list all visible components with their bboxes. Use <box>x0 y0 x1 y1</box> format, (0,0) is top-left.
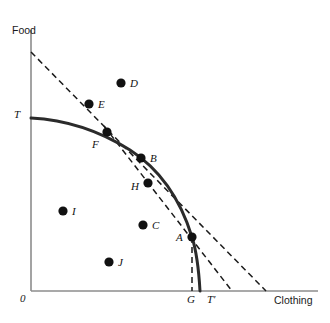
data-point-J[interactable] <box>104 257 113 266</box>
dashed-lines-group <box>31 52 266 291</box>
point-label-E: E <box>98 99 105 110</box>
diagram-canvas <box>0 0 330 323</box>
data-point-I[interactable] <box>58 206 67 215</box>
point-label-J: J <box>118 257 123 268</box>
ppf-curve-group <box>31 118 200 291</box>
tick-label-T: T <box>14 109 20 120</box>
data-point-H[interactable] <box>143 178 152 187</box>
data-point-B[interactable] <box>136 153 145 162</box>
origin-label: 0 <box>20 293 26 304</box>
x-axis-title: Clothing <box>274 295 313 306</box>
point-label-B: B <box>150 153 157 164</box>
production-possibility-frontier <box>31 118 200 291</box>
data-point-D[interactable] <box>116 78 125 87</box>
y-axis-title: Food <box>12 25 36 36</box>
data-point-E[interactable] <box>84 99 93 108</box>
point-label-D: D <box>130 78 138 89</box>
point-label-H: H <box>131 181 139 192</box>
data-point-F[interactable] <box>102 127 111 136</box>
data-point-A[interactable] <box>187 232 196 241</box>
data-point-C[interactable] <box>138 220 147 229</box>
point-label-C: C <box>152 220 159 231</box>
tick-label-T-prime: T′ <box>207 294 216 305</box>
point-label-A: A <box>176 232 183 243</box>
point-label-I: I <box>72 206 76 217</box>
price-line-tangent-A <box>104 126 232 291</box>
tick-label-G: G <box>187 294 195 305</box>
budget-line-T <box>31 52 266 291</box>
axes-group <box>31 30 318 291</box>
ppf-diagram: Food Clothing 0 T G T′ DEFBHICAJ <box>0 0 330 323</box>
point-label-F: F <box>92 139 99 150</box>
